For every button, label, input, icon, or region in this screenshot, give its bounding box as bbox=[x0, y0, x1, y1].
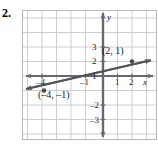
x-tick-1: 1 bbox=[115, 77, 120, 87]
problem-number: 2. bbox=[2, 6, 11, 21]
x-tick-2: 2 bbox=[129, 77, 134, 87]
y-tick-3: 3 bbox=[92, 42, 97, 52]
y-tick-neg3: –3 bbox=[90, 115, 99, 125]
annotation-point-neg4-neg1: (–4, –1) bbox=[38, 89, 70, 100]
x-axis-label: x bbox=[143, 77, 147, 87]
y-tick-1: 1 bbox=[92, 71, 97, 81]
y-tick-2: 2 bbox=[92, 56, 97, 66]
y-axis-label: y bbox=[107, 12, 111, 22]
coordinate-plane: 3 2 1 –2 –3 –4 –1 1 2 y x (2, 1) (–4, –1… bbox=[22, 10, 157, 140]
x-tick-neg1: –1 bbox=[80, 77, 89, 87]
point-marker-2-1 bbox=[130, 59, 135, 64]
figure-container: 2. bbox=[0, 0, 158, 152]
y-tick-neg2: –2 bbox=[90, 100, 99, 110]
x-tick-neg4: –4 bbox=[36, 77, 45, 87]
annotation-point-2-1: (2, 1) bbox=[102, 45, 124, 56]
